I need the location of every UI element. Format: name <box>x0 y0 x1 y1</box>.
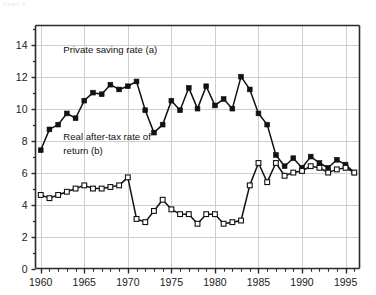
data-point-marker <box>56 122 61 127</box>
series-line <box>41 77 355 173</box>
data-point-marker <box>326 165 331 170</box>
data-point-marker <box>64 111 69 116</box>
data-point-marker <box>195 106 200 111</box>
x-tick-label: 1980 <box>203 276 227 288</box>
data-point-marker <box>82 98 87 103</box>
real-return-label-line2: return (b) <box>63 145 102 156</box>
data-point-marker <box>160 197 165 202</box>
data-point-marker <box>134 79 139 84</box>
data-point-marker <box>300 169 305 174</box>
y-tick-label: 12 <box>16 71 28 83</box>
data-point-marker <box>256 161 261 166</box>
private-saving-label: Private saving rate (a) <box>63 44 157 55</box>
chart-annotations: Private saving rate (a)Real after-tax ra… <box>63 44 157 156</box>
data-point-marker <box>56 193 61 198</box>
data-point-marker <box>352 170 357 175</box>
data-point-marker <box>117 87 122 92</box>
data-point-marker <box>186 85 191 90</box>
data-point-marker <box>343 165 348 170</box>
series-line <box>41 163 355 224</box>
data-point-marker <box>326 170 331 175</box>
data-point-marker <box>247 87 252 92</box>
data-point-marker <box>178 108 183 113</box>
y-tick-label: 0 <box>22 263 28 275</box>
data-point-marker <box>143 220 148 225</box>
data-point-marker <box>169 98 174 103</box>
data-point-marker <box>239 74 244 79</box>
data-point-marker <box>125 175 130 180</box>
data-point-marker <box>308 164 313 169</box>
data-point-marker <box>204 212 209 217</box>
y-tick-label: 2 <box>22 231 28 243</box>
real-return-label-line1: Real after-tax rate of <box>63 131 151 142</box>
data-point-marker <box>47 196 52 201</box>
series-private-saving-rate <box>38 74 356 175</box>
data-point-marker <box>117 183 122 188</box>
data-point-marker <box>265 122 270 127</box>
data-point-marker <box>265 180 270 185</box>
data-point-marker <box>64 189 69 194</box>
series-real-after-tax-return <box>38 161 356 227</box>
x-tick-label: 1995 <box>334 276 358 288</box>
x-tick-label: 1975 <box>160 276 184 288</box>
x-tick-label: 1985 <box>247 276 271 288</box>
data-point-marker <box>143 108 148 113</box>
y-tick-label: 10 <box>16 103 28 115</box>
data-point-marker <box>108 82 113 87</box>
data-point-marker <box>47 127 52 132</box>
data-point-marker <box>230 220 235 225</box>
y-tick-label: 4 <box>22 199 28 211</box>
y-tick-label: 14 <box>16 39 28 51</box>
data-point-marker <box>152 209 157 214</box>
x-tick-label: 1965 <box>73 276 97 288</box>
data-point-marker <box>186 212 191 217</box>
data-point-marker <box>152 130 157 135</box>
figure-root: Chart 3 19601965197019751980198519901995… <box>0 0 376 295</box>
data-point-marker <box>256 111 261 116</box>
data-point-marker <box>317 161 322 166</box>
data-point-marker <box>73 116 78 121</box>
data-point-marker <box>273 153 278 158</box>
data-point-marker <box>91 90 96 95</box>
data-point-marker <box>169 207 174 212</box>
data-point-marker <box>282 164 287 169</box>
data-point-marker <box>221 221 226 226</box>
data-point-marker <box>195 221 200 226</box>
data-point-marker <box>73 186 78 191</box>
data-point-marker <box>134 217 139 222</box>
data-point-marker <box>82 183 87 188</box>
x-tick-label: 1970 <box>116 276 140 288</box>
data-point-marker <box>291 156 296 161</box>
data-point-marker <box>213 103 218 108</box>
data-point-marker <box>99 92 104 97</box>
data-point-marker <box>213 212 218 217</box>
data-point-marker <box>178 212 183 217</box>
data-point-marker <box>160 122 165 127</box>
data-point-marker <box>334 167 339 172</box>
data-point-marker <box>239 218 244 223</box>
data-point-marker <box>317 165 322 170</box>
y-tick-label: 8 <box>22 135 28 147</box>
data-point-marker <box>334 157 339 162</box>
data-point-marker <box>247 183 252 188</box>
data-point-marker <box>221 97 226 102</box>
data-point-marker <box>38 148 43 153</box>
data-point-marker <box>308 154 313 159</box>
x-tick-label: 1960 <box>29 276 53 288</box>
data-point-marker <box>91 186 96 191</box>
chart-canvas: 19601965197019751980198519901995 0246810… <box>0 0 376 295</box>
y-axis-labels: 02468101214 <box>16 39 28 275</box>
data-point-marker <box>99 186 104 191</box>
data-point-marker <box>38 193 43 198</box>
data-point-marker <box>125 84 130 89</box>
x-axis-labels: 19601965197019751980198519901995 <box>29 276 357 288</box>
data-point-marker <box>204 84 209 89</box>
data-point-marker <box>291 170 296 175</box>
data-point-marker <box>273 161 278 166</box>
data-point-marker <box>282 173 287 178</box>
data-point-marker <box>108 185 113 190</box>
y-tick-label: 6 <box>22 167 28 179</box>
data-point-marker <box>230 106 235 111</box>
x-tick-label: 1990 <box>290 276 314 288</box>
